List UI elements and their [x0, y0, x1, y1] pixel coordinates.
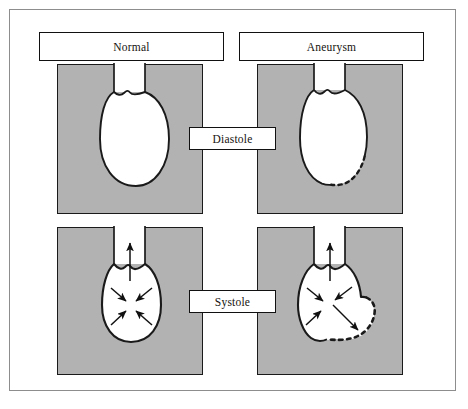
panel-aneurysm-systole: [257, 227, 403, 375]
row-label-systole-text: Systole: [215, 296, 250, 308]
diagram-canvas: Normal Aneurysm Diastole Systole: [0, 0, 468, 409]
row-label-systole: Systole: [189, 290, 276, 313]
row-label-diastole: Diastole: [189, 127, 276, 150]
panel-aneurysm-diastole: [257, 64, 403, 214]
column-label-normal-text: Normal: [113, 41, 149, 53]
panel-normal-systole: [57, 227, 203, 375]
column-label-normal: Normal: [39, 32, 224, 61]
figure-root: Normal Aneurysm Diastole Systole: [0, 0, 468, 409]
row-label-diastole-text: Diastole: [213, 133, 253, 145]
column-label-aneurysm: Aneurysm: [239, 32, 424, 61]
panel-normal-diastole: [57, 64, 203, 214]
column-label-aneurysm-text: Aneurysm: [307, 41, 357, 53]
